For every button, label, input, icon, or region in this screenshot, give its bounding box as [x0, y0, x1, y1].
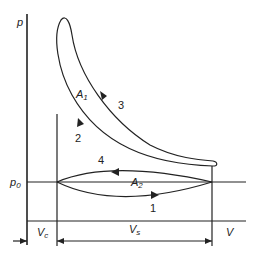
vs-arrow-left: [57, 238, 64, 244]
process-label-4: 4: [98, 154, 104, 166]
v-axis-label: V: [226, 226, 235, 238]
arrow-process-4: [111, 168, 119, 176]
vc-arrow: [20, 238, 27, 244]
vc-label: Vc: [37, 226, 48, 240]
area-a2-label: A2: [130, 176, 143, 190]
process-label-1: 1: [150, 202, 156, 214]
vs-label: Vs: [129, 223, 140, 237]
pv-diagram: p V p0 A1 A2 1 2 3 4 Vc Vs: [0, 0, 256, 254]
process-label-3: 3: [118, 99, 124, 111]
vs-arrow-right: [205, 238, 212, 244]
process-label-2: 2: [75, 132, 81, 144]
p0-label: p0: [9, 176, 21, 190]
area-a1-label: A1: [75, 88, 88, 102]
arrow-process-2: [77, 118, 84, 127]
p-axis-label: p: [16, 16, 23, 28]
arrow-process-1: [151, 191, 159, 199]
